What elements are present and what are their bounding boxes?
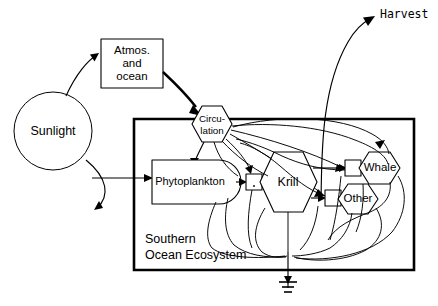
sunlight-label: Sunlight — [30, 124, 76, 138]
feedback-loop-other-return — [294, 208, 381, 260]
system-caption-line2: Ocean Ecosystem — [145, 248, 246, 262]
flow-krill-to-whale-gate — [313, 164, 347, 172]
circulation-label-line1: Circu- — [199, 113, 225, 124]
krill-node[interactable]: Krill — [260, 152, 317, 212]
system-box-caption: Southern Ocean Ecosystem — [145, 232, 246, 262]
other-label: Other — [344, 192, 373, 204]
atmosphere-and-ocean-node[interactable]: Atmos. and ocean — [101, 39, 163, 88]
whale-node[interactable]: Whale — [359, 152, 400, 184]
flow-sunlight-to-atmosphere — [66, 53, 99, 96]
circulation-label-line2: lation — [200, 125, 223, 136]
krill-label: Krill — [278, 175, 299, 189]
other-node[interactable]: Other — [338, 184, 378, 214]
system-caption-line1: Southern — [145, 232, 196, 246]
flow-atmosphere-to-circulation — [163, 72, 202, 116]
flow-sunlight-unused-energy — [86, 160, 105, 210]
whale-label: Whale — [364, 161, 397, 173]
energy-systems-diagram: Sunlight Atmos. and ocean — [0, 0, 438, 306]
atmos-label-line2: and — [122, 57, 141, 69]
atmos-label-line1: Atmos. — [114, 44, 150, 56]
heat-sink-node — [279, 252, 297, 292]
atmos-label-line3: ocean — [116, 70, 147, 82]
feedback-loop-krill-recycle — [256, 208, 288, 257]
phytoplankton-label: Phytoplankton — [155, 175, 225, 187]
harvest-label: Harvest — [380, 7, 428, 21]
sunlight-node[interactable]: Sunlight — [14, 92, 92, 170]
diagram-canvas: Sunlight Atmos. and ocean — [0, 0, 438, 306]
